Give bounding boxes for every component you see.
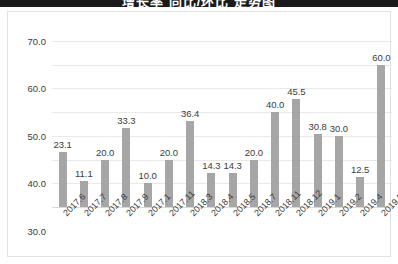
bar-value-label: 60.0 (372, 52, 391, 63)
bar-value-label: 20.0 (96, 147, 115, 158)
bar-value-label: 14.3 (202, 160, 221, 171)
chart-frame: 0.010.020.030.040.050.060.070.0 23.111.1… (7, 11, 391, 257)
bar-slot: 14.3 (222, 41, 243, 207)
bar-slot: 11.1 (73, 41, 94, 207)
bar-value-label: 40.0 (266, 99, 285, 110)
x-axis-labels: 2017.62017.72017.82017.92017.12017.11201… (52, 207, 392, 264)
bar-slot: 60.0 (371, 41, 392, 207)
bar-slot: 20.0 (95, 41, 116, 207)
bar-slot: 30.8 (307, 41, 328, 207)
bar-value-label: 23.1 (53, 139, 72, 150)
bar-value-label: 11.1 (75, 168, 93, 179)
bar-value-label: 12.5 (351, 164, 370, 175)
bar-slot: 14.3 (201, 41, 222, 207)
bar-value-label: 33.3 (117, 115, 136, 126)
bar-value-label: 20.0 (160, 147, 179, 158)
bar-slot: 20.0 (243, 41, 264, 207)
bar[interactable] (59, 152, 67, 207)
bar-value-label: 14.3 (223, 160, 242, 171)
y-axis-tick-label: 70.0 (28, 36, 47, 47)
plot-area: 0.010.020.030.040.050.060.070.0 23.111.1… (52, 41, 392, 207)
y-axis-tick-label: 30.0 (28, 225, 47, 236)
bar-slot: 23.1 (52, 41, 73, 207)
bar-value-label: 36.4 (181, 108, 200, 119)
bar-slot: 33.3 (116, 41, 137, 207)
bar-series: 23.111.120.033.310.020.036.414.314.320.0… (52, 41, 392, 207)
bar-slot: 10.0 (137, 41, 158, 207)
chart-title: 增长率 同比/环比 走势图 (0, 0, 398, 7)
bar-slot: 12.5 (350, 41, 371, 207)
y-axis-tick-label: 50.0 (28, 130, 47, 141)
bar-value-label: 10.0 (138, 170, 157, 181)
bar-slot: 45.5 (286, 41, 307, 207)
bar-slot: 30.0 (328, 41, 349, 207)
chart-title-band: 增长率 同比/环比 走势图 (0, 0, 398, 7)
bar-slot: 36.4 (180, 41, 201, 207)
bar[interactable] (377, 65, 385, 207)
bar-value-label: 20.0 (245, 147, 264, 158)
y-axis-tick-label: 60.0 (28, 83, 47, 94)
y-axis-tick-label: 40.0 (28, 178, 47, 189)
bar-value-label: 45.5 (287, 86, 306, 97)
bar-slot: 20.0 (158, 41, 179, 207)
bar-slot: 40.0 (265, 41, 286, 207)
bar-value-label: 30.8 (308, 121, 327, 132)
bar-value-label: 30.0 (330, 123, 349, 134)
chart-container: 增长率 同比/环比 走势图 0.010.020.030.040.050.060.… (0, 0, 398, 264)
